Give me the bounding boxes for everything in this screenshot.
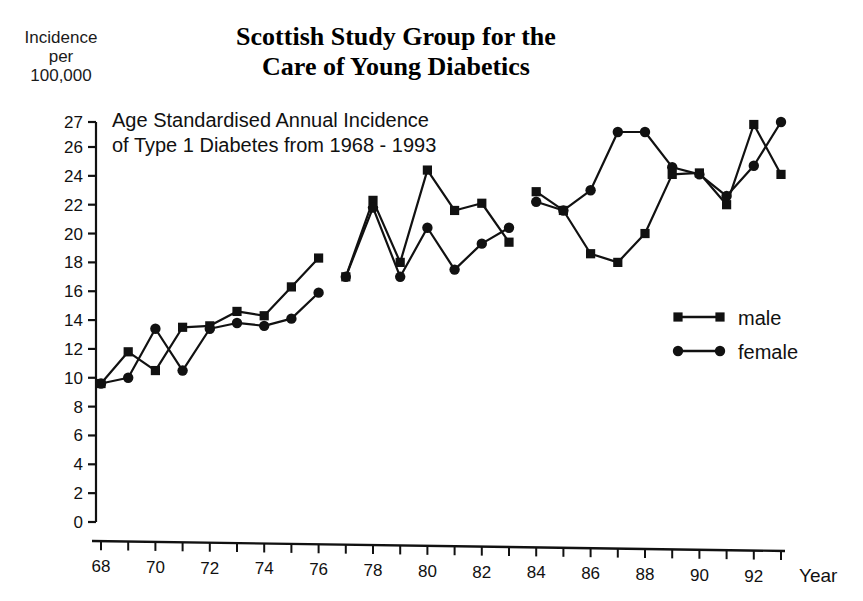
y-tick-label: 27 bbox=[64, 113, 83, 132]
y-tick-label: 6 bbox=[74, 426, 83, 445]
data-point-female bbox=[640, 127, 650, 137]
x-tick-label: 74 bbox=[255, 559, 274, 578]
legend-male-marker-start bbox=[673, 312, 682, 321]
y-tick-label: 24 bbox=[64, 167, 83, 186]
data-point-male bbox=[124, 347, 133, 356]
data-point-female bbox=[531, 197, 541, 207]
legend: malefemale bbox=[673, 307, 798, 363]
x-tick-label: 90 bbox=[690, 566, 709, 585]
series-line-female bbox=[536, 122, 781, 210]
y-tick-label: 12 bbox=[64, 340, 83, 359]
legend-female-marker-start bbox=[673, 346, 683, 356]
y-tick-label: 8 bbox=[74, 398, 83, 417]
data-point-male bbox=[423, 165, 432, 174]
x-axis-title: Year bbox=[799, 565, 838, 586]
x-tick-label: 86 bbox=[581, 564, 600, 583]
data-point-male bbox=[450, 206, 459, 215]
data-point-female bbox=[585, 185, 595, 195]
x-tick-label: 82 bbox=[472, 563, 491, 582]
legend-male-label: male bbox=[738, 307, 781, 329]
x-tick-label: 70 bbox=[146, 558, 165, 577]
data-point-male bbox=[749, 120, 758, 129]
plot-area: 0246810121416182022242627 68707274767880… bbox=[0, 0, 863, 601]
data-point-female bbox=[286, 313, 296, 323]
y-tick-label: 4 bbox=[74, 455, 83, 474]
data-point-female bbox=[395, 272, 405, 282]
y-tick-label: 22 bbox=[64, 196, 83, 215]
data-point-female bbox=[694, 169, 704, 179]
x-axis: 68707274767880828486889092Year bbox=[92, 541, 839, 586]
data-point-male bbox=[151, 366, 160, 375]
data-point-male bbox=[532, 187, 541, 196]
series-line-female bbox=[101, 293, 319, 384]
data-point-male bbox=[477, 199, 486, 208]
data-point-female bbox=[449, 264, 459, 274]
data-point-female bbox=[368, 202, 378, 212]
data-point-female bbox=[667, 162, 677, 172]
data-point-female bbox=[477, 238, 487, 248]
x-tick-label: 88 bbox=[636, 565, 655, 584]
data-point-female bbox=[150, 324, 160, 334]
x-tick-label: 92 bbox=[744, 567, 763, 586]
legend-female-label: female bbox=[738, 341, 798, 363]
data-point-female bbox=[504, 223, 514, 233]
x-tick-label: 84 bbox=[527, 563, 546, 582]
data-point-male bbox=[504, 238, 513, 247]
x-tick-label: 80 bbox=[418, 562, 437, 581]
y-tick-label: 26 bbox=[64, 138, 83, 157]
data-point-female bbox=[749, 161, 759, 171]
data-series-group bbox=[96, 117, 786, 389]
y-tick-label: 2 bbox=[74, 484, 83, 503]
data-point-female bbox=[613, 127, 623, 137]
data-point-male bbox=[287, 282, 296, 291]
series-line-male bbox=[536, 125, 781, 263]
y-tick-label: 20 bbox=[64, 225, 83, 244]
y-tick-label: 0 bbox=[74, 513, 83, 532]
data-point-female bbox=[313, 287, 323, 297]
x-tick-label: 76 bbox=[309, 560, 328, 579]
data-point-male bbox=[232, 307, 241, 316]
y-tick-label: 14 bbox=[64, 311, 83, 330]
y-tick-label: 18 bbox=[64, 253, 83, 272]
data-point-male bbox=[314, 253, 323, 262]
legend-female-marker-end bbox=[715, 346, 725, 356]
data-point-female bbox=[341, 272, 351, 282]
x-tick-label: 78 bbox=[364, 561, 383, 580]
data-point-female bbox=[776, 117, 786, 127]
data-point-female bbox=[422, 223, 432, 233]
data-point-male bbox=[722, 200, 731, 209]
data-point-female bbox=[721, 191, 731, 201]
data-point-male bbox=[613, 258, 622, 267]
data-point-male bbox=[178, 323, 187, 332]
y-axis: 0246810121416182022242627 bbox=[64, 113, 96, 532]
x-tick-label: 68 bbox=[92, 557, 111, 576]
legend-male-marker-end bbox=[715, 312, 724, 321]
data-point-female bbox=[259, 321, 269, 331]
data-point-male bbox=[260, 311, 269, 320]
y-tick-label: 16 bbox=[64, 282, 83, 301]
x-tick-label: 72 bbox=[200, 559, 219, 578]
data-point-male bbox=[776, 170, 785, 179]
data-point-male bbox=[640, 229, 649, 238]
data-point-male bbox=[586, 249, 595, 258]
data-point-female bbox=[177, 365, 187, 375]
y-tick-label: 10 bbox=[64, 369, 83, 388]
data-point-female bbox=[205, 324, 215, 334]
data-point-female bbox=[232, 318, 242, 328]
data-point-female bbox=[123, 373, 133, 383]
chart-root: Incidence per 100,000 Scottish Study Gro… bbox=[0, 0, 863, 601]
data-point-female bbox=[558, 205, 568, 215]
data-point-female bbox=[96, 378, 106, 388]
